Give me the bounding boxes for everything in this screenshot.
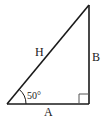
angle-label: 50° <box>27 90 41 101</box>
right-triangle-diagram: H B A 50° <box>0 0 105 121</box>
triangle <box>7 5 89 104</box>
hypotenuse-side <box>7 5 89 104</box>
right-angle-marker <box>79 94 89 104</box>
hypotenuse-label: H <box>35 45 44 59</box>
adjacent-label: A <box>44 105 53 119</box>
opposite-label: B <box>92 50 100 64</box>
angle-arc <box>19 89 26 104</box>
